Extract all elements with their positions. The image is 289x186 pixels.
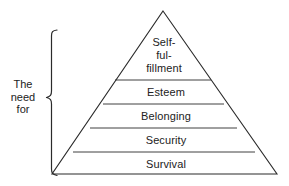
tier-label-survival: Survival: [116, 158, 216, 171]
tier-label-belonging: Belonging: [116, 110, 216, 123]
bracket-caption-line-3: for: [0, 103, 46, 116]
tier-label-esteem: Esteem: [121, 86, 211, 99]
tier-label-self-fulfillment-line-2: ful-: [131, 49, 197, 62]
tier-label-self-fulfillment-line-3: fillment: [131, 62, 197, 75]
bracket-caption: The need for: [0, 78, 46, 116]
bracket-caption-line-1: The: [0, 78, 46, 91]
tier-label-self-fulfillment-line-1: Self-: [131, 36, 197, 49]
bracket-caption-line-2: need: [0, 91, 46, 104]
tier-label-security: Security: [116, 134, 216, 147]
hierarchy-of-needs-diagram: The need for Self- ful- fillment Esteem …: [0, 0, 289, 186]
curly-brace-icon: [47, 30, 58, 176]
tier-label-self-fulfillment: Self- ful- fillment: [131, 36, 197, 75]
